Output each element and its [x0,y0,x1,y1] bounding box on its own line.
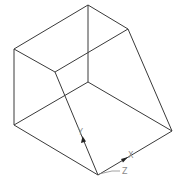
edge-right-slope [128,29,172,131]
edge-top-front-right [55,29,128,72]
solid-wireframe [14,5,172,175]
edge-bottom-back-left [14,82,88,125]
z-axis-label: Z [122,167,128,176]
ucs-axis-triad: Y X Z [77,128,134,176]
edge-bottom-front-right [98,131,172,175]
wireframe-diagram: Y X Z [0,0,178,182]
edge-top-back-right [88,5,128,29]
edge-bottom-back-right [88,82,172,131]
x-axis-arrow-icon [121,157,128,163]
edge-top-back-left [14,5,88,49]
edge-top-front-left [14,49,55,72]
x-axis-label: X [128,151,134,160]
edge-bottom-front-left [14,125,98,175]
y-axis-label: Y [77,128,83,137]
edge-front-slope [55,72,98,175]
